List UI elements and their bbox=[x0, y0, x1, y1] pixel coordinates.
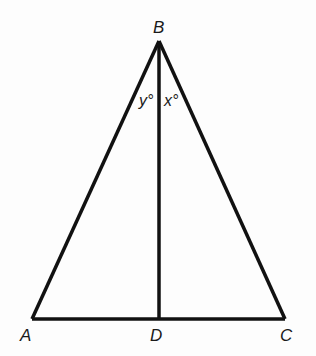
segment-bc bbox=[159, 41, 285, 319]
diagram-canvas: B A D C y° x° bbox=[0, 0, 316, 356]
angle-label-x: x° bbox=[163, 92, 179, 109]
vertex-label-b: B bbox=[153, 18, 164, 37]
segment-ab bbox=[32, 41, 159, 319]
vertex-label-d: D bbox=[150, 326, 162, 345]
angle-label-y: y° bbox=[138, 92, 154, 109]
triangle-diagram: B A D C y° x° bbox=[0, 0, 316, 356]
vertex-label-c: C bbox=[280, 326, 293, 345]
vertex-label-a: A bbox=[19, 326, 31, 345]
